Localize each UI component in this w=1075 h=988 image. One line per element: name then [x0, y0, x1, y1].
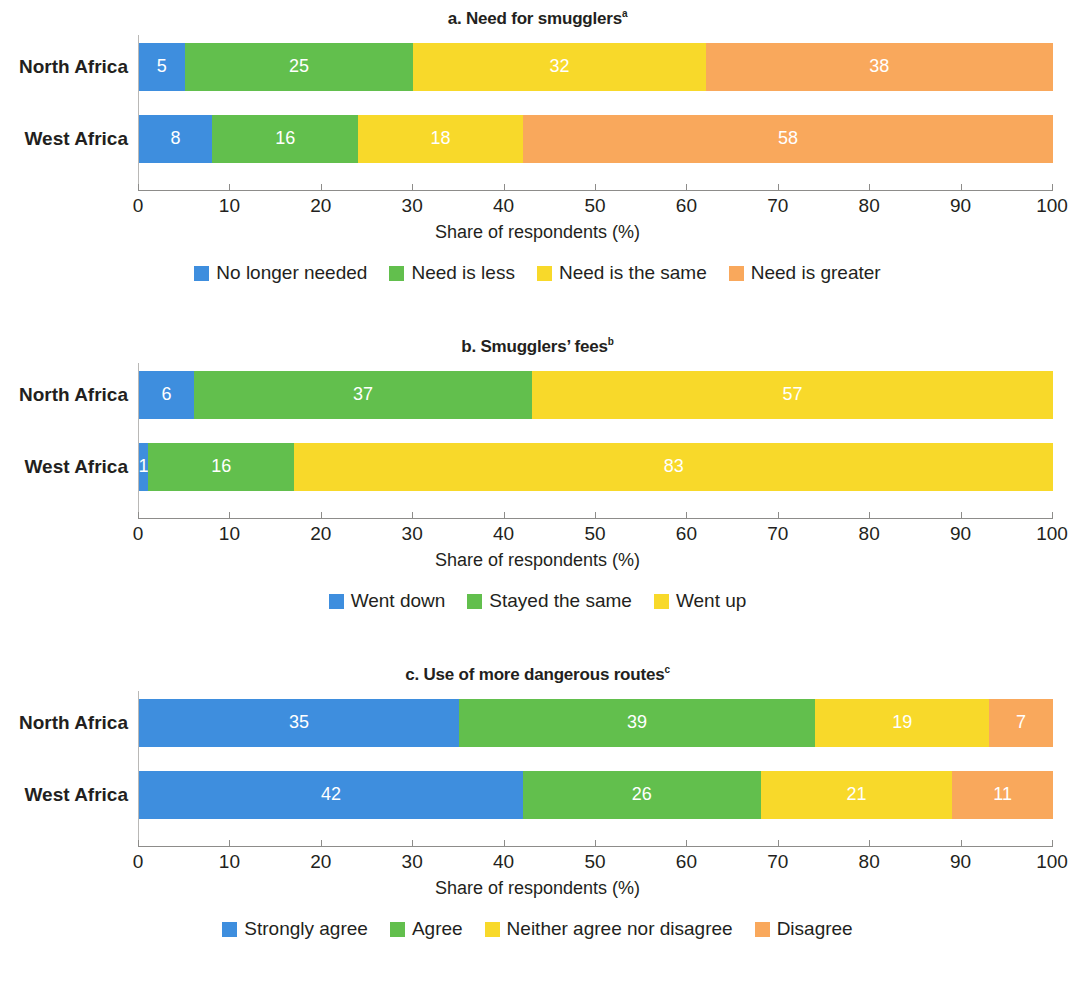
- x-axis-tick-label: 70: [767, 523, 788, 545]
- bar-segment: 58: [523, 115, 1053, 163]
- category-label: North Africa: [0, 56, 128, 78]
- x-axis-tick-label: 30: [402, 195, 423, 217]
- x-axis-tick-label: 10: [219, 851, 240, 873]
- panel-c-title: c. Use of more dangerous routesc: [0, 664, 1075, 685]
- bar-segment: 18: [358, 115, 523, 163]
- panel-b-title-footnote-marker: b: [608, 336, 614, 347]
- x-axis-tick: [321, 840, 322, 847]
- x-axis-tick: [412, 840, 413, 847]
- x-axis-tick: [686, 512, 687, 519]
- bar-segment: 35: [139, 699, 459, 747]
- bar-row: West Africa42262111: [0, 771, 1075, 819]
- x-axis-tick: [1052, 840, 1053, 847]
- panel-b-title: b. Smugglers’ feesb: [0, 336, 1075, 357]
- bar-segment: 38: [706, 43, 1053, 91]
- legend-item[interactable]: Stayed the same: [467, 590, 632, 612]
- bar-segment: 26: [523, 771, 761, 819]
- x-axis-tick: [961, 184, 962, 191]
- x-axis-tick-label: 20: [310, 195, 331, 217]
- legend-label: Went down: [351, 590, 446, 612]
- stacked-bar: 42262111: [139, 771, 1053, 819]
- bar-segment: 16: [148, 443, 294, 491]
- x-axis-tick: [778, 840, 779, 847]
- x-axis-tick-label: 80: [859, 523, 880, 545]
- bar-row: North Africa3539197: [0, 699, 1075, 747]
- legend-label: Agree: [412, 918, 463, 940]
- bar-segment: 32: [413, 43, 705, 91]
- x-axis-tick-label: 0: [133, 523, 144, 545]
- x-axis-tick: [229, 840, 230, 847]
- x-axis-tick-label: 90: [950, 523, 971, 545]
- x-axis-tick: [778, 512, 779, 519]
- x-axis-tick-label: 100: [1036, 195, 1068, 217]
- legend-item[interactable]: Went up: [654, 590, 746, 612]
- bar-segment: 16: [212, 115, 358, 163]
- x-axis-tick: [961, 512, 962, 519]
- x-axis-tick-label: 0: [133, 851, 144, 873]
- bar-segment: 42: [139, 771, 523, 819]
- legend-item[interactable]: Neither agree nor disagree: [485, 918, 733, 940]
- bar-segment: 83: [294, 443, 1053, 491]
- x-axis-tick-label: 100: [1036, 851, 1068, 873]
- bar-segment: 1: [139, 443, 148, 491]
- legend-swatch-icon: [389, 266, 404, 281]
- legend-label: Disagree: [777, 918, 853, 940]
- x-axis-tick: [686, 840, 687, 847]
- x-axis-tick-label: 20: [310, 523, 331, 545]
- x-axis-tick: [595, 840, 596, 847]
- legend-item[interactable]: Need is less: [389, 262, 515, 284]
- legend-swatch-icon: [755, 922, 770, 937]
- bar-row: West Africa8161858: [0, 115, 1075, 163]
- category-label: North Africa: [0, 384, 128, 406]
- panel-a-legend: No longer neededNeed is lessNeed is the …: [0, 262, 1075, 284]
- x-axis-tick: [229, 184, 230, 191]
- legend-swatch-icon: [537, 266, 552, 281]
- legend-item[interactable]: Went down: [329, 590, 446, 612]
- panel-c-legend: Strongly agreeAgreeNeither agree nor dis…: [0, 918, 1075, 940]
- x-axis-tick: [595, 184, 596, 191]
- x-axis-tick: [138, 184, 139, 191]
- x-axis-tick: [504, 840, 505, 847]
- legend-label: Need is less: [411, 262, 515, 284]
- legend-item[interactable]: No longer needed: [194, 262, 367, 284]
- legend-item[interactable]: Disagree: [755, 918, 853, 940]
- legend-item[interactable]: Need is greater: [729, 262, 881, 284]
- legend-label: Neither agree nor disagree: [507, 918, 733, 940]
- panel-c-x-axis-label: Share of respondents (%): [0, 878, 1075, 899]
- bar-segment: 25: [185, 43, 414, 91]
- chart-panel-c: c. Use of more dangerous routesc 0102030…: [0, 664, 1075, 846]
- x-axis-tick-label: 50: [584, 851, 605, 873]
- legend-item[interactable]: Agree: [390, 918, 463, 940]
- x-axis-tick: [412, 512, 413, 519]
- legend-item[interactable]: Strongly agree: [222, 918, 368, 940]
- legend-item[interactable]: Need is the same: [537, 262, 707, 284]
- bar-segment: 21: [761, 771, 953, 819]
- x-axis-tick-label: 80: [859, 195, 880, 217]
- x-axis-tick-label: 70: [767, 195, 788, 217]
- stacked-bar: 63757: [139, 371, 1053, 419]
- bar-row: North Africa5253238: [0, 43, 1075, 91]
- legend-label: Need is the same: [559, 262, 707, 284]
- panel-a-plot: 0102030405060708090100North Africa525323…: [0, 35, 1075, 190]
- panel-b-plot: 0102030405060708090100North Africa63757W…: [0, 363, 1075, 518]
- legend-swatch-icon: [485, 922, 500, 937]
- legend-swatch-icon: [329, 594, 344, 609]
- legend-label: Need is greater: [751, 262, 881, 284]
- panel-c-title-text: c. Use of more dangerous routes: [405, 665, 664, 684]
- category-label: West Africa: [0, 784, 128, 806]
- stacked-bar: 3539197: [139, 699, 1053, 747]
- chart-panel-a: a. Need for smugglersa 01020304050607080…: [0, 8, 1075, 190]
- panel-b-title-text: b. Smugglers’ fees: [461, 337, 608, 356]
- x-axis-tick-label: 0: [133, 195, 144, 217]
- category-label: West Africa: [0, 456, 128, 478]
- x-axis-tick: [869, 184, 870, 191]
- stacked-bar: 5253238: [139, 43, 1053, 91]
- bar-row: North Africa63757: [0, 371, 1075, 419]
- panel-c-plot: 0102030405060708090100North Africa353919…: [0, 691, 1075, 846]
- x-axis-tick: [686, 184, 687, 191]
- panel-a-title-footnote-marker: a: [622, 8, 627, 19]
- x-axis-tick: [1052, 184, 1053, 191]
- x-axis-tick-label: 100: [1036, 523, 1068, 545]
- category-label: North Africa: [0, 712, 128, 734]
- x-axis-tick: [321, 512, 322, 519]
